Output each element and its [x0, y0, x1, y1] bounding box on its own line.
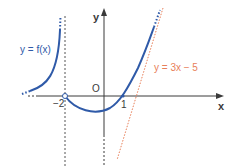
origin-label: O	[92, 83, 100, 94]
function-label: y = f(x)	[20, 44, 51, 55]
open-point-neg2	[63, 94, 68, 99]
oblique-asymptote	[117, 8, 163, 160]
tick-label-neg2: −2	[53, 98, 65, 109]
x-axis-label: x	[218, 100, 225, 112]
y-axis-label: y	[93, 11, 100, 23]
x-axis-arrow-icon	[216, 93, 224, 99]
y-axis-arrow-icon	[101, 8, 107, 16]
tick-label-1: 1	[121, 99, 127, 110]
function-graph: x y O −2 1 y = 3x − 5 y = f(x)	[0, 0, 237, 166]
oblique-asymptote-label: y = 3x − 5	[154, 62, 198, 73]
curve-left-branch	[22, 16, 61, 94]
point-1	[121, 94, 124, 97]
